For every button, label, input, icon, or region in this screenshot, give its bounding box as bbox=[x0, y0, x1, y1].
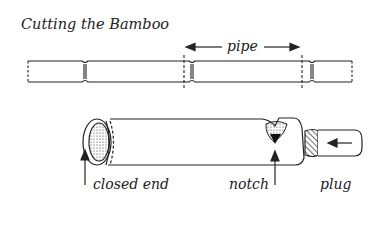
closed-end-label: closed end bbox=[93, 176, 169, 192]
notch-label: notch bbox=[229, 176, 269, 192]
pipe-label: pipe bbox=[227, 38, 258, 54]
bamboo-stalk bbox=[28, 55, 352, 88]
plug-label: plug bbox=[320, 176, 351, 192]
notch-shape bbox=[266, 122, 287, 145]
plug-shape bbox=[305, 130, 362, 157]
notch-pointer bbox=[271, 151, 279, 185]
